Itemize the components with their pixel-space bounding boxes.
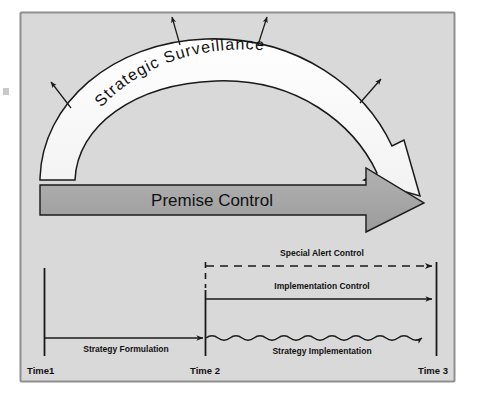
implementation-control-label: Implementation Control bbox=[274, 281, 369, 291]
strategy-formulation-label: Strategy Formulation bbox=[83, 344, 168, 354]
time3-label: Time 3 bbox=[418, 365, 448, 376]
strategic-control-diagram: Strategic Surveillance Premise Control S… bbox=[0, 0, 477, 397]
time2-label: Time 2 bbox=[190, 365, 220, 376]
strategy-implementation-label: Strategy Implementation bbox=[272, 346, 371, 356]
time1-label: Time1 bbox=[27, 365, 55, 376]
diagram-stage: Strategic Surveillance Premise Control S… bbox=[0, 0, 477, 397]
edge-artifact-mark bbox=[3, 88, 9, 95]
special-alert-control-label: Special Alert Control bbox=[280, 248, 364, 258]
premise-control-label: Premise Control bbox=[151, 191, 273, 210]
